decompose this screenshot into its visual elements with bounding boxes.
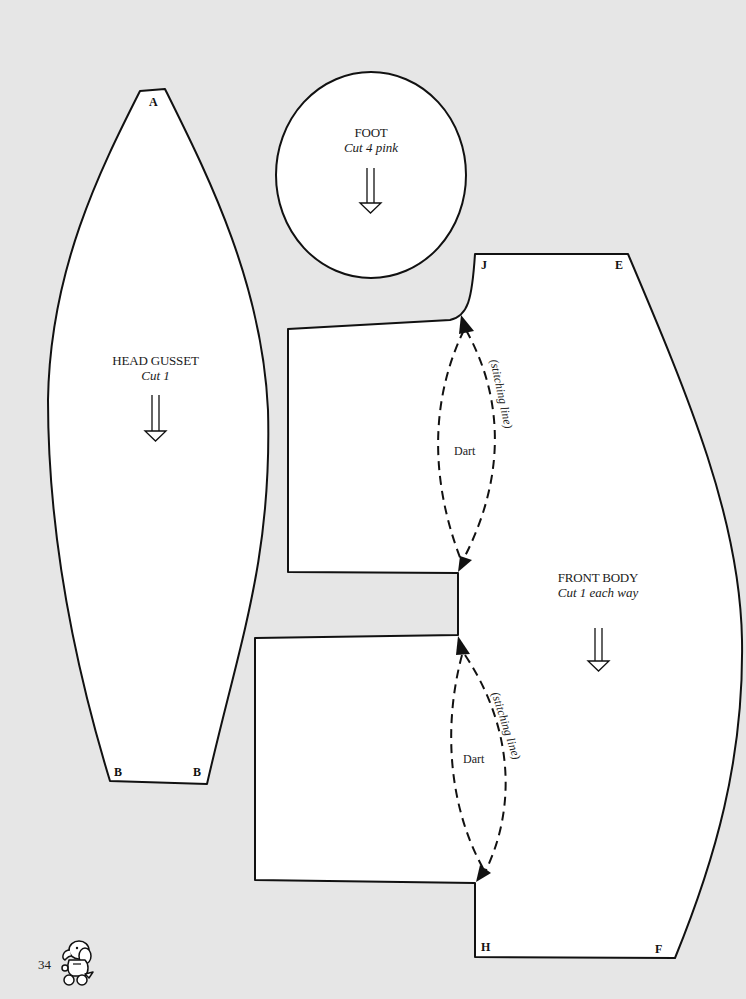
head-gusset-corner-a: A (149, 95, 158, 110)
page-number: 34 (38, 957, 51, 973)
elephant-mascot-icon (55, 938, 95, 986)
front-body-corner-h: H (481, 940, 490, 955)
foot-title: FOOT (321, 125, 421, 140)
head-gusset-corner-b-right: B (193, 765, 201, 780)
front-body-corner-e: E (615, 258, 623, 273)
upper-dart-label: Dart (454, 444, 475, 459)
front-body-cut-instruction: Cut 1 each way (538, 585, 658, 600)
pattern-page: HEAD GUSSET Cut 1 A B B FOOT Cut 4 pink … (0, 0, 746, 999)
foot-label: FOOT Cut 4 pink (321, 125, 421, 155)
head-gusset-cut-instruction: Cut 1 (98, 368, 213, 383)
foot-piece (276, 72, 466, 278)
head-gusset-title: HEAD GUSSET (98, 353, 213, 368)
head-gusset-label: HEAD GUSSET Cut 1 (98, 353, 213, 383)
head-gusset-corner-b-left: B (114, 765, 122, 780)
front-body-corner-j: J (481, 258, 487, 273)
front-body-label: FRONT BODY Cut 1 each way (538, 570, 658, 600)
lower-dart-label: Dart (463, 752, 484, 767)
front-body-corner-f: F (655, 942, 662, 957)
front-body-title: FRONT BODY (538, 570, 658, 585)
foot-cut-instruction: Cut 4 pink (321, 140, 421, 155)
